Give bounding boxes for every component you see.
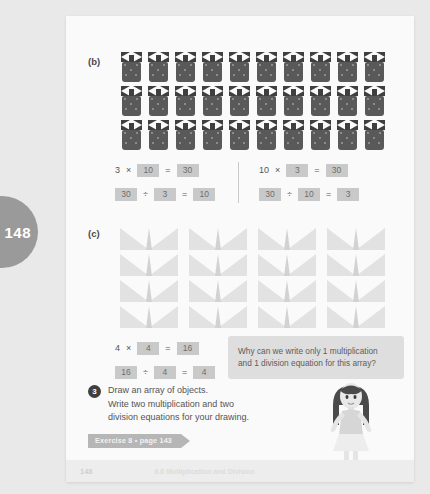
answer-box[interactable]: 16 [115, 366, 137, 379]
candy-bag-icon [363, 86, 386, 117]
candy-bag-icon [120, 120, 143, 151]
candy-bag-body [365, 96, 384, 116]
candy-bag-twist-right [376, 120, 385, 130]
airplane-fin [284, 228, 290, 250]
airplane-wing-left [258, 254, 287, 276]
candy-bag-twist-right [241, 120, 250, 130]
candy-bag-icon [309, 120, 332, 151]
question-3-line-3: division equations for your drawing. [108, 411, 249, 425]
airplane-fin [284, 280, 290, 302]
answer-box[interactable]: 3 [154, 188, 176, 201]
question-3-number: 3 [88, 385, 101, 398]
textbook-page: (b) 3×10=3030÷3=10 10×3=3030÷10=3 (c) 4×… [66, 16, 414, 482]
candy-bag-icon [147, 120, 170, 151]
equation-symbol: = [182, 368, 187, 377]
paper-airplane-icon [120, 254, 178, 278]
airplane-fin [353, 228, 359, 250]
candy-bag-icon [174, 120, 197, 151]
answer-box[interactable]: 10 [137, 164, 159, 177]
part-b-equations-right: 10×3=3030÷10=3 [256, 162, 362, 210]
candy-bag-body [176, 62, 195, 82]
exercise-banner-arrow-icon [181, 434, 190, 448]
airplane-wing-right [218, 280, 247, 302]
candy-bag-body [176, 96, 195, 116]
part-b-left-div-equation: 30÷3=10 [112, 186, 218, 203]
equation-symbol: × [126, 166, 131, 175]
airplane-wing-left [120, 254, 149, 276]
candy-bag-icon [336, 120, 359, 151]
speech-bubble-line-2: and 1 division equation for this array? [238, 357, 395, 369]
girl-illustration [316, 376, 386, 468]
answer-box[interactable]: 10 [298, 188, 320, 201]
airplane-fin [284, 254, 290, 276]
airplane-fin [146, 228, 152, 250]
speech-bubble-line-1: Why can we write only 1 multiplication [238, 345, 395, 357]
answer-box[interactable]: 16 [177, 342, 199, 355]
candy-bag-body [257, 130, 276, 150]
airplane-fin [146, 306, 152, 328]
airplane-wing-left [258, 306, 287, 328]
part-label-b: (b) [88, 56, 100, 67]
answer-box[interactable]: 4 [137, 342, 159, 355]
airplane-wing-right [218, 306, 247, 328]
airplane-fin [215, 280, 221, 302]
candy-bag-body [257, 96, 276, 116]
part-b-left-mult-equation: 3×10=30 [112, 162, 218, 179]
candy-bag-body [203, 130, 222, 150]
candy-bag-icon [336, 86, 359, 117]
candy-bag-twist-right [322, 120, 331, 130]
question-3-text: Draw an array of objects. Write two mult… [108, 384, 249, 425]
candy-bag-body [149, 62, 168, 82]
page-number-tab-label: 148 [4, 224, 31, 241]
paper-airplane-icon [327, 254, 385, 278]
answer-box[interactable]: 4 [154, 366, 176, 379]
candy-bag-body [338, 96, 357, 116]
candy-bag-twist-right [349, 120, 358, 130]
exercise-banner[interactable]: Exercise 8 • page 143 [88, 434, 190, 448]
candy-bag-twist-right [349, 52, 358, 62]
airplane-wing-right [356, 306, 385, 328]
candy-bag-icon [174, 52, 197, 83]
answer-box[interactable]: 10 [193, 188, 215, 201]
paper-airplane-icon [258, 228, 316, 252]
candy-bag-body [230, 62, 249, 82]
airplane-wing-right [218, 254, 247, 276]
answer-box[interactable]: 3 [286, 164, 308, 177]
airplane-fin [284, 306, 290, 328]
answer-box[interactable]: 4 [193, 366, 215, 379]
candy-bag-body [176, 130, 195, 150]
candy-bag-body [311, 62, 330, 82]
equation-symbol: × [126, 344, 131, 353]
candy-bag-icon [282, 120, 305, 151]
candy-bag-body [149, 96, 168, 116]
equation-symbol: ÷ [287, 190, 292, 199]
answer-box[interactable]: 30 [115, 188, 137, 201]
airplane-fin [146, 254, 152, 276]
candy-bag-icon [147, 52, 170, 83]
answer-box[interactable]: 30 [326, 164, 348, 177]
paper-airplane-icon [327, 280, 385, 304]
airplane-wing-right [287, 280, 316, 302]
paper-airplane-icon [258, 280, 316, 304]
answer-box[interactable]: 3 [337, 188, 359, 201]
airplane-wing-left [120, 306, 149, 328]
candy-bag-array [120, 52, 390, 153]
candy-bag-body [122, 62, 141, 82]
candy-bag-twist-right [160, 52, 169, 62]
answer-box[interactable]: 30 [259, 188, 281, 201]
girl-illustration-svg [316, 376, 386, 468]
part-b-right-div-equation: 30÷10=3 [256, 186, 362, 203]
candy-bag-twist-right [241, 86, 250, 96]
candy-bag-body [338, 130, 357, 150]
question-3-line-1: Draw an array of objects. [108, 384, 249, 398]
airplane-fin [215, 254, 221, 276]
candy-bag-icon [336, 52, 359, 83]
candy-bag-body [122, 96, 141, 116]
candy-bag-icon [282, 86, 305, 117]
candy-bag-icon [363, 52, 386, 83]
page-footer: 148 6.6 Multiplication and Division [66, 460, 414, 482]
candy-bag-twist-right [268, 52, 277, 62]
answer-box[interactable]: 30 [177, 164, 199, 177]
candy-bag-icon [228, 86, 251, 117]
airplane-wing-left [327, 306, 356, 328]
